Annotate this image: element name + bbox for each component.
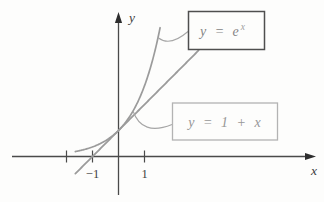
- x-ticks-group: −11: [67, 151, 148, 182]
- exp-label-prefix: y = e: [198, 24, 240, 39]
- x-axis-label: x: [310, 163, 317, 178]
- function-plot: −11 x y y = ex y = 1 + x: [0, 0, 324, 202]
- x-axis-arrowhead-icon: [305, 153, 316, 160]
- x-tick-label: 1: [141, 167, 147, 181]
- exp-label-superscript: x: [240, 22, 246, 32]
- line-label-leader: [133, 111, 172, 128]
- exp-label-text: y = ex: [198, 22, 246, 39]
- y-axis-arrowhead-icon: [115, 12, 122, 23]
- exp-label-leader: [159, 32, 189, 42]
- exp-curve: [75, 28, 160, 152]
- y-axis-label: y: [127, 10, 135, 25]
- x-tick-label: −1: [86, 167, 99, 181]
- line-label-text: y = 1 + x: [186, 115, 261, 130]
- graph-figure: −11 x y y = ex y = 1 + x: [0, 0, 324, 202]
